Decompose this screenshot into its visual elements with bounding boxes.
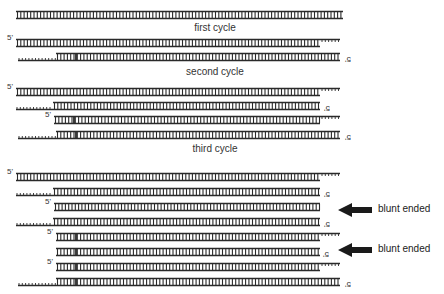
dna-duplex [18, 54, 340, 61]
left-arrow-icon [338, 203, 372, 217]
blunt-ended-label: blunt ended [378, 243, 430, 254]
five-prime-label: 5' [47, 227, 53, 236]
dna-duplex [54, 204, 320, 211]
dna-duplex [18, 132, 340, 139]
dna-duplex [16, 219, 320, 226]
dna-duplex [16, 89, 340, 96]
dna-duplex [54, 117, 340, 124]
five-prime-label: 5' [7, 167, 13, 176]
dna-duplex [16, 40, 340, 47]
five-prime-label: 5' [7, 33, 13, 42]
dna-duplex [56, 234, 340, 241]
five-prime-label-inverted: 5' [323, 250, 329, 259]
dna-duplex [16, 103, 320, 110]
five-prime-label: 5' [45, 197, 51, 206]
five-prime-label: 5' [45, 110, 51, 119]
five-prime-label-inverted: 5' [345, 55, 351, 64]
blunt-ended-label: blunt ended [378, 203, 430, 214]
dna-duplex [16, 174, 340, 181]
dna-duplex [56, 264, 340, 271]
five-prime-label: 5' [47, 257, 53, 266]
five-prime-label-inverted: 5' [324, 220, 330, 229]
cycle-caption: first cycle [194, 22, 236, 33]
dna-duplex [56, 249, 320, 256]
cycle-caption: second cycle [186, 66, 244, 77]
dna-duplex [18, 279, 340, 286]
dna-duplex [16, 189, 320, 196]
five-prime-label-inverted: 5' [324, 190, 330, 199]
five-prime-label-inverted: 5' [324, 104, 330, 113]
five-prime-label: 5' [7, 82, 13, 91]
dna-duplex [16, 12, 343, 19]
five-prime-label-inverted: 5' [345, 133, 351, 142]
left-arrow-icon [338, 243, 372, 257]
five-prime-label-inverted: 5' [345, 280, 351, 289]
cycle-caption: third cycle [192, 143, 237, 154]
